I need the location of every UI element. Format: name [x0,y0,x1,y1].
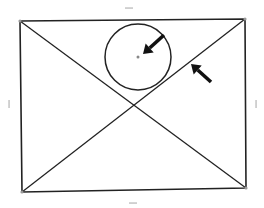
corner-point-top-right [243,17,246,20]
bottom-handle[interactable] [129,202,137,203]
arrow-to-diagonal-icon [191,64,211,82]
right-handle[interactable] [255,100,256,108]
geometry-figure [0,0,264,208]
diagonal-descending [20,21,246,188]
arrow-to-circle-center-icon [143,35,164,54]
circle-center-dot [137,56,140,59]
arrows [143,35,211,82]
diagram-canvas [0,0,264,208]
corner-point-bottom-left [20,190,23,193]
diagonal-ascending [22,19,245,192]
top-handle[interactable] [125,7,133,8]
left-handle[interactable] [8,100,9,108]
corner-point-bottom-right [244,186,247,189]
corner-point-top-left [18,19,21,22]
